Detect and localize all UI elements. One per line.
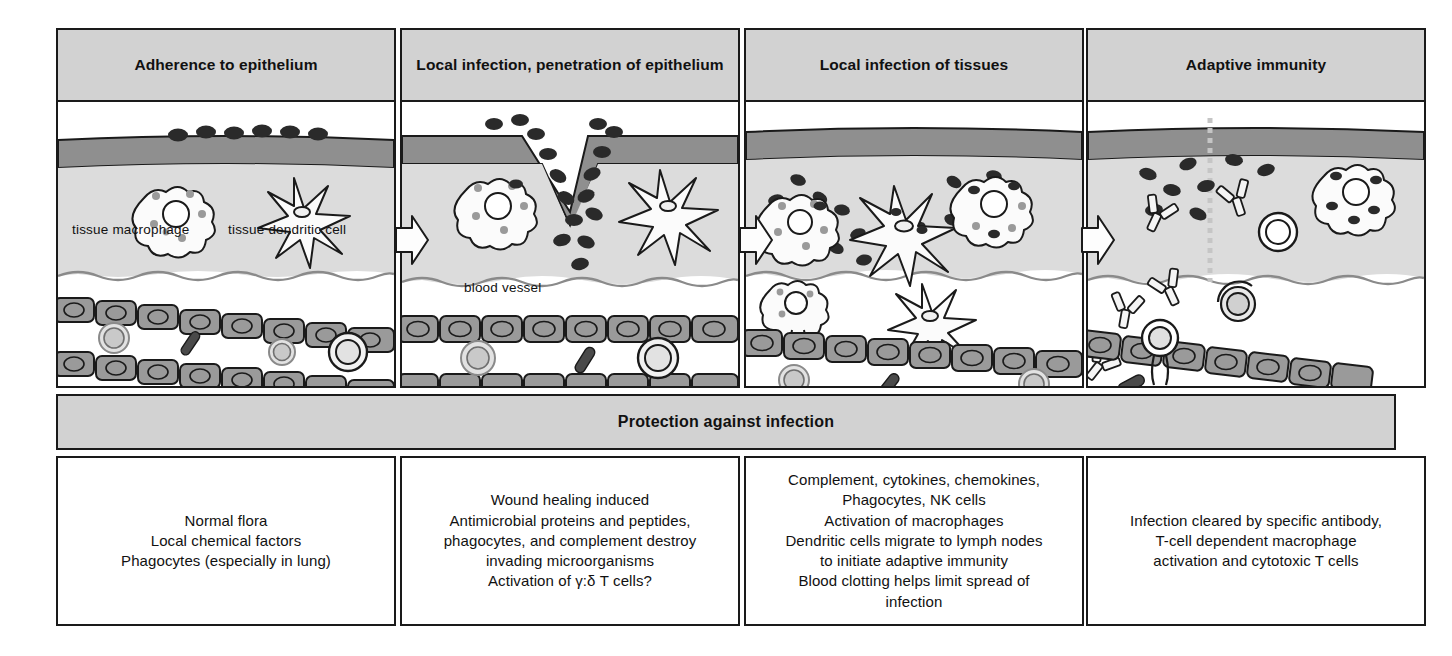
panel-adaptive-immunity: Adaptive immunity (1086, 28, 1426, 388)
blood-vessel-label: blood vessel (464, 280, 541, 295)
adaptive-illustration (1088, 102, 1424, 386)
panel-art-penetration: blood vessel (402, 102, 738, 386)
panel-title-adherence: Adherence to epithelium (58, 30, 394, 102)
tissue-macrophage-label: tissue macrophage (72, 222, 189, 237)
tissues-illustration (746, 102, 1082, 386)
description-text: Wound healing induced Antimicrobial prot… (444, 490, 697, 591)
description-row: Normal flora Local chemical factors Phag… (56, 456, 1396, 626)
panel-art-adaptive (1088, 102, 1424, 386)
description-tissues: Complement, cytokines, chemokines, Phago… (744, 456, 1084, 626)
panel-local-infection-penetration: Local infection, penetration of epitheli… (400, 28, 740, 388)
panel-title-line2: of epithelium (626, 56, 724, 73)
panel-art-tissues (746, 102, 1082, 386)
adherence-illustration (58, 102, 394, 386)
stage-arrow-1 (394, 210, 430, 270)
blood-vessel-glyph (58, 298, 394, 386)
panel-title-line1: Local infection, penetration (416, 56, 621, 73)
stage-arrow-3 (1080, 210, 1116, 270)
description-adaptive: Infection cleared by specific antibody, … (1086, 456, 1426, 626)
panel-art-adherence: tissue macrophage tissue dendritic cell (58, 102, 394, 386)
description-text: Complement, cytokines, chemokines, Phago… (785, 470, 1042, 612)
panel-title-adaptive: Adaptive immunity (1088, 30, 1424, 102)
description-text: Normal flora Local chemical factors Phag… (121, 511, 331, 572)
antibody-glyph (1106, 291, 1146, 331)
description-penetration: Wound healing induced Antimicrobial prot… (400, 456, 740, 626)
panel-adherence: Adherence to epithelium (56, 28, 396, 388)
panel-title-penetration: Local infection, penetration of epitheli… (402, 30, 738, 102)
protection-banner: Protection against infection (56, 394, 1396, 450)
description-text: Infection cleared by specific antibody, … (1130, 511, 1382, 572)
blood-vessel-glyph (746, 330, 1082, 386)
panel-row: Adherence to epithelium (56, 28, 1396, 388)
immune-response-stages-figure: Adherence to epithelium (0, 0, 1452, 656)
blood-vessel-glyph (402, 316, 738, 386)
penetration-illustration (402, 102, 738, 386)
description-adherence: Normal flora Local chemical factors Phag… (56, 456, 396, 626)
stage-arrow-2 (738, 210, 774, 270)
panel-title-tissues: Local infection of tissues (746, 30, 1082, 102)
blood-vessel-glyph (1088, 320, 1373, 386)
tissue-dendritic-cell-label: tissue dendritic cell (228, 222, 346, 237)
panel-local-infection-tissues: Local infection of tissues (744, 28, 1084, 388)
